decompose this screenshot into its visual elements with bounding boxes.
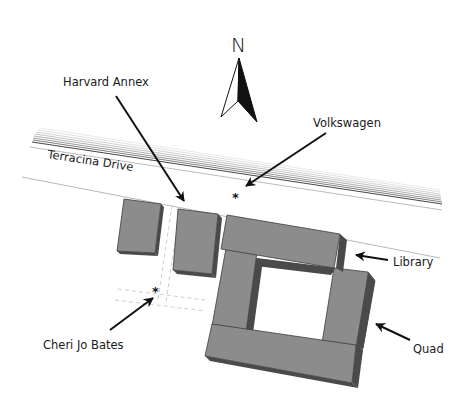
cheri-jo-bates-label: Cheri Jo Bates xyxy=(43,338,124,352)
quad-arrow-icon xyxy=(376,324,410,340)
campus-map: N Terracina Drive xyxy=(0,0,471,412)
cheri-jo-bates-marker-icon: * xyxy=(152,284,159,299)
building-quad xyxy=(205,248,375,388)
north-compass-icon: N xyxy=(221,33,257,122)
quad-label: Quad xyxy=(413,342,444,356)
harvard-annex-label: Harvard Annex xyxy=(63,75,149,89)
building-harvard-annex xyxy=(173,209,222,278)
cheri-jo-bates-arrow-icon xyxy=(110,298,153,330)
volkswagen-marker-icon: * xyxy=(232,190,239,205)
volkswagen-label: Volkswagen xyxy=(313,116,381,130)
library-arrow-icon xyxy=(356,255,388,260)
north-label: N xyxy=(231,33,246,57)
building-small xyxy=(117,199,164,256)
library-label: Library xyxy=(393,255,433,269)
